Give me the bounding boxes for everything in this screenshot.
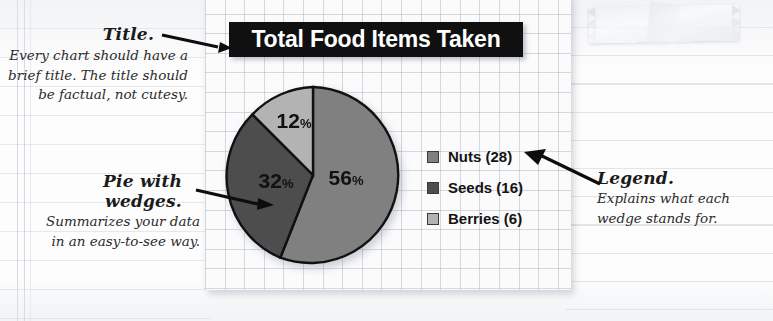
- arrow-pie-to-wedge: [196, 188, 280, 214]
- annotation-title-heading: Title.: [8, 24, 154, 44]
- legend-label-berries: Berries (6): [448, 210, 522, 227]
- pie-label-berries-percent: %: [300, 116, 312, 131]
- chart-legend: Nuts (28) Seeds (16) Berries (6): [427, 141, 523, 234]
- legend-label-nuts: Nuts (28): [448, 148, 512, 165]
- legend-swatch-berries: [427, 213, 439, 225]
- annotation-pie-heading-line1: Pie with: [40, 172, 182, 191]
- legend-swatch-seeds: [427, 182, 439, 194]
- pie-label-nuts-number: 56: [329, 166, 352, 189]
- pie-label-berries-number: 12: [277, 109, 300, 132]
- pie-label-nuts-percent: %: [352, 173, 364, 188]
- arrow-title-to-banner: [160, 32, 236, 58]
- legend-label-seeds: Seeds (16): [448, 179, 523, 196]
- annotation-pie-note: Pie with wedges. Summarizes your data in…: [40, 172, 200, 251]
- annotation-legend-note: Legend. Explains what each wedge stands …: [597, 168, 767, 228]
- tape-fold: [646, 2, 680, 49]
- arrow-legend-to-legend: [520, 148, 606, 190]
- legend-item-nuts[interactable]: Nuts (28): [427, 141, 523, 172]
- pie-chart: 56% 32% 12%: [218, 80, 408, 270]
- legend-item-berries[interactable]: Berries (6): [427, 203, 523, 234]
- pie-label-seeds-percent: %: [282, 176, 294, 191]
- annotation-pie-body: Summarizes your data in an easy-to-see w…: [46, 213, 200, 249]
- pie-chart-svg: 56% 32% 12%: [218, 80, 408, 270]
- annotation-pie-heading-line2: wedges.: [40, 192, 182, 211]
- chart-title: Total Food Items Taken: [251, 26, 500, 53]
- annotation-legend-heading: Legend.: [597, 168, 767, 188]
- legend-swatch-nuts: [427, 151, 439, 163]
- annotation-legend-body: Explains what each wedge stands for.: [597, 190, 730, 226]
- chart-title-banner: Total Food Items Taken: [229, 22, 523, 57]
- legend-item-seeds[interactable]: Seeds (16): [427, 172, 523, 203]
